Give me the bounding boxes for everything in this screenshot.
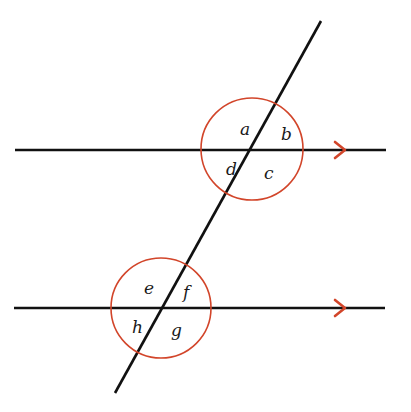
angle-label-d: d (226, 159, 237, 179)
parallel-lines-diagram: a b c d e f g h (0, 0, 411, 412)
angle-label-c: c (264, 163, 274, 183)
angle-label-b: b (281, 124, 292, 144)
angle-label-h: h (132, 317, 143, 337)
background (0, 0, 411, 412)
angle-label-a: a (240, 119, 250, 139)
angle-label-g: g (171, 320, 182, 340)
angle-label-e: e (144, 278, 154, 298)
